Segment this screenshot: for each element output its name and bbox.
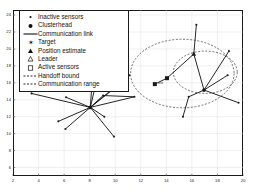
legend-label: Communication range [38,81,100,87]
inactive-sensor-marker [102,94,104,96]
x-tick-label: 14 [164,179,169,183]
communication-link [90,107,114,136]
legend-marker [23,72,38,80]
communication-link [189,90,204,97]
x-tick-label: 8 [88,179,90,183]
y-tick-label: 8 [2,148,11,152]
legend-label: Target [38,39,56,45]
legend-label: Handoff bound [38,73,79,79]
estimate-annotation: est [158,81,163,85]
legend-label: Clusterhead [38,22,72,28]
x-tick-label: 2 [12,179,14,183]
y-tick-label: 12 [2,115,11,119]
communication-link [90,107,104,116]
inactive-sensor-marker [237,102,239,104]
communication-link [65,107,90,129]
communication-link [194,25,197,54]
inactive-sensor-marker [228,50,230,52]
communication-link [32,93,91,107]
legend-marker [23,30,38,38]
legend-item-clusterhead: Clusterhead [23,21,125,29]
legend-label: Communication link [38,31,93,37]
y-tick-label: 14 [2,98,11,102]
clusterhead-marker [88,106,92,110]
inactive-sensor-marker [103,116,105,118]
legend-marker [23,47,38,55]
y-tick-label: 10 [2,132,11,136]
communication-link [194,54,204,90]
inactive-sensor-marker [113,136,115,138]
inactive-sensor-marker [65,96,67,98]
active-sensor-marker [165,76,169,80]
legend-item-leader: Leader [23,55,125,63]
inactive-sensor-marker [188,96,190,98]
y-tick-label: 6 [2,165,11,169]
open-square-marker [23,64,38,72]
clusterhead-marker [202,88,206,92]
solid-line-marker [23,30,38,38]
legend-item-inactive-sensors: Inactive sensors [23,13,125,21]
y-tick-label: 22 [2,30,11,34]
x-tick-label: 16 [190,179,195,183]
communication-link [204,90,239,103]
handoff-bound-circle [131,39,235,108]
filled-triangle-marker [23,47,38,55]
y-tick-label: 20 [2,47,11,51]
inactive-sensor-marker [30,92,32,94]
y-tick-label: 18 [2,64,11,68]
legend-marker [23,63,38,71]
x-tick-label: 18 [215,179,220,183]
inactive-sensor-marker [57,120,59,122]
legend-label: Active sensors [38,64,79,70]
communication-link [204,51,229,90]
y-tick-label: 16 [2,81,11,85]
open-triangle-marker [23,55,38,63]
legend-item-position-estimate: Position estimate [23,47,125,55]
legend-label: Leader [38,56,58,62]
inactive-sensor-marker [227,74,229,76]
communication-range-circle [173,51,237,93]
legend-item-communication-link: Communication link [23,30,125,38]
inactive-sensor-marker [133,96,135,98]
legend-item-target: ✶Target [23,38,125,46]
active-sensor-marker [153,82,157,86]
inactive-sensor-marker [64,128,66,130]
star-marker: ✶ [23,38,38,46]
communication-link [58,107,90,121]
legend-marker [23,80,38,88]
legend-marker: ✶ [23,38,38,46]
x-tick-label: 20 [241,179,246,183]
figure-container: 2468101214161820 681012141618202224 est … [0,0,253,194]
x-tick-label: 10 [113,179,118,183]
legend-item-handoff-bound: Handoff bound [23,72,125,80]
legend-label: Position estimate [38,48,86,54]
communication-link [204,75,228,90]
legend-marker [23,55,38,63]
filled-circle-marker [23,22,38,30]
legend-marker [23,13,38,21]
legend-item-communication-range: Communication range [23,80,125,88]
small-dot-marker [23,13,38,21]
legend: Inactive sensorsClusterheadCommunication… [19,10,129,92]
x-tick-label: 6 [63,179,65,183]
dashed-line-marker [23,72,38,80]
x-tick-label: 4 [37,179,39,183]
inactive-sensor-marker [182,116,184,118]
svg-text:✶: ✶ [28,39,34,46]
y-tick-label: 24 [2,13,11,17]
inactive-sensor-marker [195,24,197,26]
legend-label: Inactive sensors [38,14,84,20]
legend-item-active-sensors: Active sensors [23,63,125,71]
legend-marker [23,21,38,29]
communication-link [167,54,194,78]
communication-link [103,96,134,97]
dashed-line-marker [23,80,38,88]
x-tick-label: 12 [138,179,143,183]
